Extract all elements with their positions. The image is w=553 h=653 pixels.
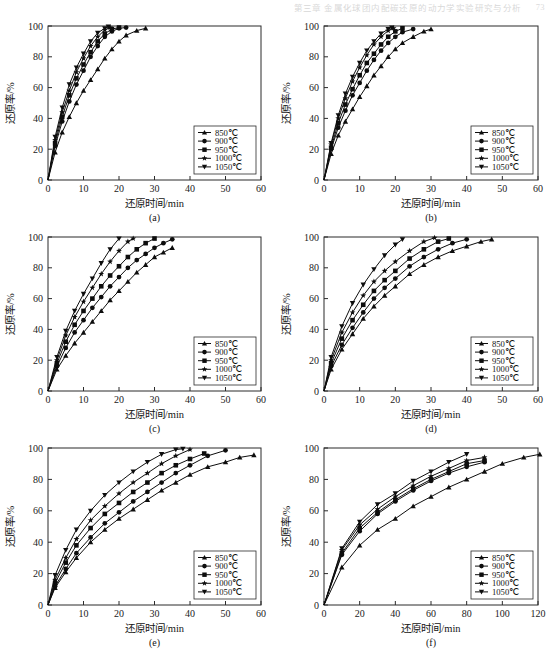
x-axis-title: 还原时间/min bbox=[401, 408, 461, 420]
data-point-marker-circle bbox=[411, 27, 416, 32]
data-point-marker-triangle-up bbox=[421, 262, 426, 267]
data-point-marker-square bbox=[365, 61, 370, 66]
data-point-marker-triangle-down bbox=[63, 548, 68, 553]
data-point-marker-square bbox=[479, 358, 483, 362]
y-tick-label: 60 bbox=[309, 82, 319, 93]
data-point-marker-triangle-up bbox=[410, 34, 415, 39]
series-line bbox=[48, 248, 172, 391]
data-point-marker-triangle-up bbox=[173, 480, 178, 485]
data-point-marker-square bbox=[90, 296, 95, 301]
data-point-marker-triangle-up bbox=[410, 503, 415, 508]
data-point-marker-circle bbox=[202, 350, 207, 355]
data-point-marker-square bbox=[88, 50, 93, 55]
y-tick-label: 0 bbox=[38, 386, 43, 397]
y-tick-label: 20 bbox=[309, 144, 319, 155]
series-950℃ bbox=[48, 451, 206, 605]
series-950℃ bbox=[324, 26, 405, 180]
x-tick-label: 30 bbox=[150, 608, 160, 619]
data-point-marker-triangle-down bbox=[90, 276, 95, 281]
data-point-marker-square bbox=[99, 284, 104, 289]
y-tick-label: 0 bbox=[38, 600, 43, 611]
subplot-f: 020406080100120020406080100还原时间/min还原率/%… bbox=[276, 436, 553, 650]
data-point-marker-triangle-up bbox=[187, 472, 192, 477]
data-point-marker-square bbox=[357, 73, 362, 78]
data-point-marker-circle bbox=[386, 41, 391, 46]
x-tick-label: 0 bbox=[322, 183, 327, 194]
data-point-marker-circle bbox=[479, 564, 484, 569]
series-950℃ bbox=[324, 236, 451, 391]
data-point-marker-square bbox=[134, 247, 139, 252]
data-point-marker-circle bbox=[88, 535, 93, 540]
data-point-marker-triangle-up bbox=[407, 271, 412, 276]
y-tick-label: 40 bbox=[33, 537, 43, 548]
data-point-marker-triangle-up bbox=[123, 33, 128, 38]
series-line bbox=[48, 28, 110, 180]
data-point-marker-star bbox=[187, 446, 193, 452]
data-point-marker-square bbox=[382, 278, 387, 283]
data-point-marker-circle bbox=[117, 510, 122, 515]
y-tick-label: 40 bbox=[33, 113, 43, 124]
running-head: 第三章 金属化球团内配碳还原的动力学实验研究与分析 73 bbox=[250, 1, 545, 13]
subplot-label-e: (e) bbox=[149, 637, 160, 649]
x-axis-title: 还原时间/min bbox=[401, 197, 461, 209]
x-tick-label: 40 bbox=[185, 183, 195, 194]
x-tick-label: 50 bbox=[497, 394, 507, 405]
x-tick-label: 30 bbox=[426, 394, 436, 405]
data-point-marker-circle bbox=[81, 68, 86, 73]
x-tick-label: 10 bbox=[355, 183, 365, 194]
y-tick-label: 100 bbox=[304, 443, 319, 454]
data-point-marker-square bbox=[202, 147, 206, 151]
series-line bbox=[48, 27, 108, 180]
data-point-marker-triangle-up bbox=[464, 477, 469, 482]
running-head-page-number: 73 bbox=[536, 2, 545, 12]
subplot-d: 0102030405060020406080100还原时间/min还原率/%85… bbox=[276, 225, 553, 436]
y-tick-label: 100 bbox=[28, 21, 43, 32]
data-point-marker-square bbox=[117, 264, 122, 269]
data-point-marker-square bbox=[422, 247, 427, 252]
y-tick-label: 40 bbox=[309, 113, 319, 124]
x-tick-label: 50 bbox=[221, 183, 231, 194]
y-axis-title: 还原率/% bbox=[280, 82, 292, 124]
x-tick-label: 60 bbox=[533, 183, 543, 194]
data-point-marker-square bbox=[88, 526, 93, 531]
data-point-marker-square bbox=[393, 269, 398, 274]
data-point-marker-circle bbox=[99, 295, 104, 300]
x-axis-title: 还原时间/min bbox=[125, 622, 185, 634]
data-point-marker-square bbox=[447, 236, 452, 241]
series-line bbox=[324, 462, 485, 605]
x-tick-label: 60 bbox=[256, 608, 266, 619]
figure-page: 第三章 金属化球团内配碳还原的动力学实验研究与分析 73 01020304050… bbox=[0, 0, 553, 653]
data-point-marker-triangle-up bbox=[170, 245, 175, 250]
data-point-marker-circle bbox=[202, 139, 207, 144]
series-line bbox=[48, 450, 190, 605]
data-point-marker-circle bbox=[464, 237, 469, 242]
x-tick-label: 50 bbox=[497, 183, 507, 194]
data-point-marker-square bbox=[74, 543, 79, 548]
data-point-marker-square bbox=[436, 239, 441, 244]
data-point-marker-triangle-down bbox=[464, 452, 469, 457]
data-point-marker-triangle-down bbox=[410, 479, 415, 484]
data-point-marker-triangle-down bbox=[145, 460, 150, 465]
data-point-marker-circle bbox=[63, 567, 68, 572]
data-point-marker-triangle-up bbox=[428, 26, 433, 31]
data-point-marker-circle bbox=[421, 255, 426, 260]
y-tick-label: 60 bbox=[309, 293, 319, 304]
series-line bbox=[48, 28, 126, 180]
data-point-marker-square bbox=[145, 480, 150, 485]
data-point-marker-triangle-up bbox=[400, 40, 405, 45]
data-point-marker-square bbox=[81, 62, 86, 67]
data-point-marker-square bbox=[131, 490, 136, 495]
series-1000℃ bbox=[324, 25, 397, 180]
legend-label-1050℃: 1050℃ bbox=[215, 162, 242, 172]
data-point-marker-circle bbox=[372, 58, 377, 63]
data-point-marker-circle bbox=[102, 521, 107, 526]
y-tick-label: 0 bbox=[314, 386, 319, 397]
data-point-marker-circle bbox=[223, 448, 228, 453]
data-point-marker-square bbox=[143, 241, 148, 246]
data-point-marker-circle bbox=[125, 265, 130, 270]
data-point-marker-square bbox=[429, 477, 434, 482]
x-tick-label: 40 bbox=[185, 394, 195, 405]
data-point-marker-triangle-up bbox=[251, 452, 256, 457]
data-point-marker-square bbox=[407, 256, 412, 261]
data-point-marker-star bbox=[350, 309, 356, 315]
